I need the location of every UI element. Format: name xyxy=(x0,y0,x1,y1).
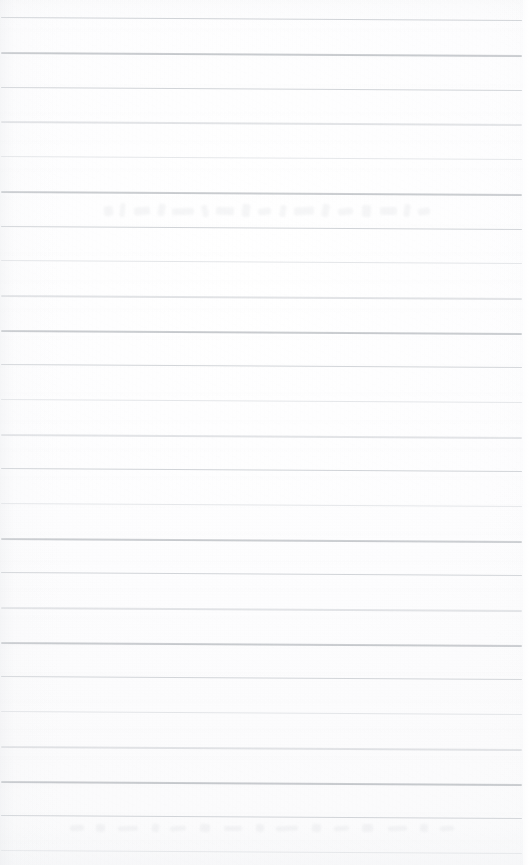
paper-background xyxy=(0,0,531,865)
scanned-page xyxy=(0,0,531,865)
